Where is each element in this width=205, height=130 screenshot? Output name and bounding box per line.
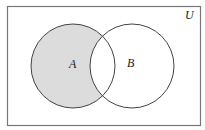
venn-diagram: A B U: [0, 0, 205, 130]
set-b-label: B: [127, 56, 135, 70]
set-a-label: A: [68, 57, 77, 71]
universe-label: U: [185, 8, 195, 22]
